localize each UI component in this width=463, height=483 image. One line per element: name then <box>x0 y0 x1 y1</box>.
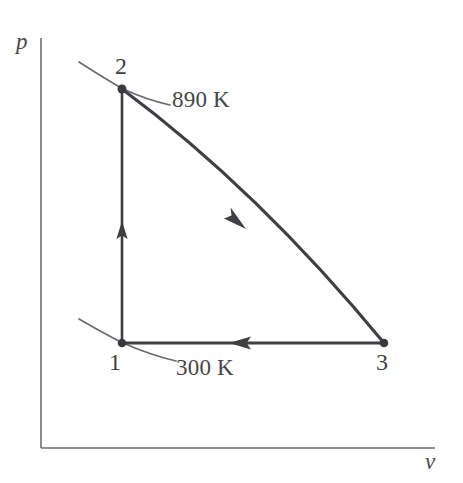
axes-group <box>41 38 435 448</box>
pv-diagram-figure: p v 1 2 3 890 K 300 K <box>0 0 463 483</box>
pv-diagram-canvas <box>0 0 463 483</box>
isotherm-label-890k: 890 K <box>172 88 230 111</box>
isotherm-label-300k: 300 K <box>176 356 234 379</box>
state-label-1: 1 <box>109 350 121 374</box>
state-point-2 <box>118 85 127 94</box>
process-arrow-2-3 <box>224 207 246 229</box>
state-point-1 <box>118 339 127 348</box>
isotherm-300k-curve <box>79 319 176 361</box>
process-path-1-2 <box>116 89 127 343</box>
process-line-2-3 <box>122 89 384 343</box>
state-point-3 <box>380 339 389 348</box>
state-label-2: 2 <box>115 54 127 78</box>
state-label-3: 3 <box>376 350 388 374</box>
process-path-3-1 <box>122 336 384 349</box>
y-axis-label: p <box>16 30 28 53</box>
process-path-2-3 <box>122 89 384 343</box>
x-axis-label: v <box>425 450 435 473</box>
